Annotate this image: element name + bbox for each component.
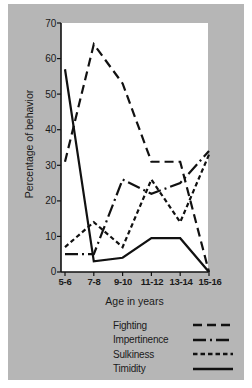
legend-item-impertinence: Impertinence <box>113 333 237 348</box>
series-layer <box>65 44 209 272</box>
legend-item-timidity: Timidity <box>113 362 237 377</box>
series-line-fighting <box>65 44 209 272</box>
legend-swatch-long-dash <box>191 319 235 331</box>
series-line-sulkiness <box>65 155 209 247</box>
legend-label: Fighting <box>113 320 191 331</box>
legend-item-sulkiness: Sulkiness <box>113 347 237 362</box>
series-line-timidity <box>65 69 209 272</box>
chart-legend: Fighting Impertinence Sulkiness Timidity <box>113 318 237 376</box>
legend-swatch-short-dash <box>191 348 235 360</box>
legend-label: Impertinence <box>113 334 191 345</box>
legend-swatch-dash-dot <box>191 334 235 346</box>
legend-label: Timidity <box>113 363 191 374</box>
legend-item-fighting: Fighting <box>113 318 237 333</box>
figure: 70 60 50 40 30 20 10 0 5-6 7-8 9-10 11-1… <box>0 0 252 388</box>
legend-swatch-solid <box>191 363 235 375</box>
legend-label: Sulkiness <box>113 349 191 360</box>
